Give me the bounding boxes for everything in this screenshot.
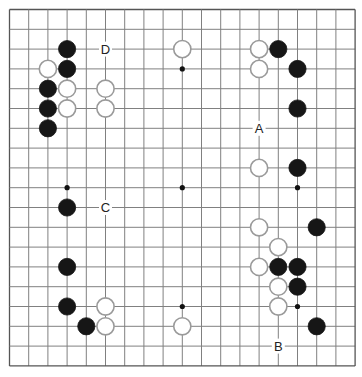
black-stone	[289, 258, 306, 275]
white-stone	[270, 239, 287, 256]
point-label-d: D	[101, 42, 110, 57]
black-stone	[59, 41, 76, 58]
white-stone	[59, 100, 76, 117]
white-stone	[97, 298, 114, 315]
black-stone	[270, 41, 287, 58]
white-stone	[174, 41, 191, 58]
black-stone	[308, 318, 325, 335]
black-stone	[39, 100, 56, 117]
white-stone	[97, 318, 114, 335]
star-point-icon	[180, 304, 185, 309]
star-point-icon	[180, 185, 185, 190]
black-stone	[289, 159, 306, 176]
black-stone	[59, 60, 76, 77]
white-stone	[251, 258, 268, 275]
white-stone	[39, 60, 56, 77]
white-stone	[251, 219, 268, 236]
black-stone	[270, 258, 287, 275]
black-stone	[308, 219, 325, 236]
point-label-a: A	[255, 121, 264, 136]
white-stone	[174, 318, 191, 335]
white-stone	[97, 100, 114, 117]
white-stone	[270, 298, 287, 315]
white-stone	[251, 159, 268, 176]
go-board: DACB	[0, 0, 362, 377]
black-stone	[289, 278, 306, 295]
black-stone	[39, 120, 56, 137]
white-stone	[270, 278, 287, 295]
point-label-b: B	[274, 339, 283, 354]
point-label-c: C	[101, 200, 110, 215]
white-stone	[97, 80, 114, 97]
star-point-icon	[180, 66, 185, 71]
star-point-icon	[65, 185, 70, 190]
star-point-icon	[295, 185, 300, 190]
white-stone	[251, 60, 268, 77]
black-stone	[289, 60, 306, 77]
black-stone	[59, 258, 76, 275]
white-stone	[59, 80, 76, 97]
black-stone	[59, 298, 76, 315]
black-stone	[78, 318, 95, 335]
star-point-icon	[295, 304, 300, 309]
black-stone	[39, 80, 56, 97]
black-stone	[289, 100, 306, 117]
white-stone	[251, 41, 268, 58]
black-stone	[59, 199, 76, 216]
